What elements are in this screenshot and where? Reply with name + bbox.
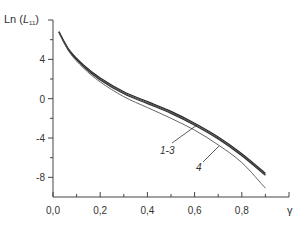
y-axis-ticks: 40-4-8 xyxy=(36,40,53,184)
annotation-4: 4 xyxy=(196,146,219,173)
svg-text:Ln (L11): Ln (L11) xyxy=(4,13,39,26)
x-axis-label: γ xyxy=(287,204,293,216)
series-line-4 xyxy=(59,33,266,188)
x-tick-label: 0,8 xyxy=(235,205,249,216)
y-tick-label: -8 xyxy=(36,172,45,183)
x-tick-label: 0,6 xyxy=(188,205,202,216)
annotation-1-3-pointer xyxy=(172,125,197,143)
y-tick-label: -4 xyxy=(36,133,45,144)
x-tick-label: 0,2 xyxy=(93,205,107,216)
x-axis-ticks: 0,00,20,40,60,8 xyxy=(46,192,289,216)
data-series xyxy=(59,32,266,188)
y-tick-label: 0 xyxy=(39,94,45,105)
y-tick-label: 4 xyxy=(39,54,45,65)
annotation-4-pointer xyxy=(203,146,219,162)
y-axis-label: Ln (L11) xyxy=(4,13,39,26)
annotation-4-label: 4 xyxy=(196,162,202,173)
chart: Ln (L11) 40-4-8 0,00,20,40,60,8 γ 1-3 4 xyxy=(0,0,308,229)
x-tick-label: 0,0 xyxy=(46,205,60,216)
annotation-1-3: 1-3 xyxy=(160,125,197,156)
x-tick-label: 0,4 xyxy=(140,205,154,216)
annotation-1-3-label: 1-3 xyxy=(160,145,175,156)
